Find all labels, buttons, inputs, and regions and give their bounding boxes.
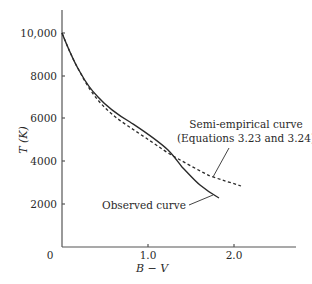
origin-label: 0 bbox=[47, 249, 54, 261]
y-tick-label-10000: 10,000 bbox=[20, 27, 57, 39]
x-tick-label-2: 2.0 bbox=[226, 249, 243, 261]
observed-curve bbox=[62, 33, 219, 198]
y-tick-label-6000: 6000 bbox=[30, 112, 57, 124]
semi-empirical-leader-line bbox=[213, 148, 229, 177]
semi-empirical-label-line1: Semi-empirical curve bbox=[189, 118, 303, 130]
y-tick-label-4000: 4000 bbox=[30, 155, 57, 167]
x-tick-label-1: 1.0 bbox=[140, 249, 157, 261]
semi-empirical-label-line2: (Equations 3.23 and 3.24) bbox=[177, 132, 312, 144]
x-axis-title: B − V bbox=[135, 262, 169, 275]
observed-curve-label: Observed curve bbox=[102, 199, 186, 211]
y-tick-label-8000: 8000 bbox=[30, 70, 57, 82]
y-axis-title: T (K) bbox=[17, 126, 30, 154]
chart-figure: 10,000 8000 6000 4000 2000 0 1.0 2.0 B −… bbox=[0, 0, 312, 284]
y-tick-label-2000: 2000 bbox=[30, 198, 57, 210]
observed-leader-line bbox=[189, 195, 213, 205]
semi-empirical-curve bbox=[62, 33, 241, 186]
